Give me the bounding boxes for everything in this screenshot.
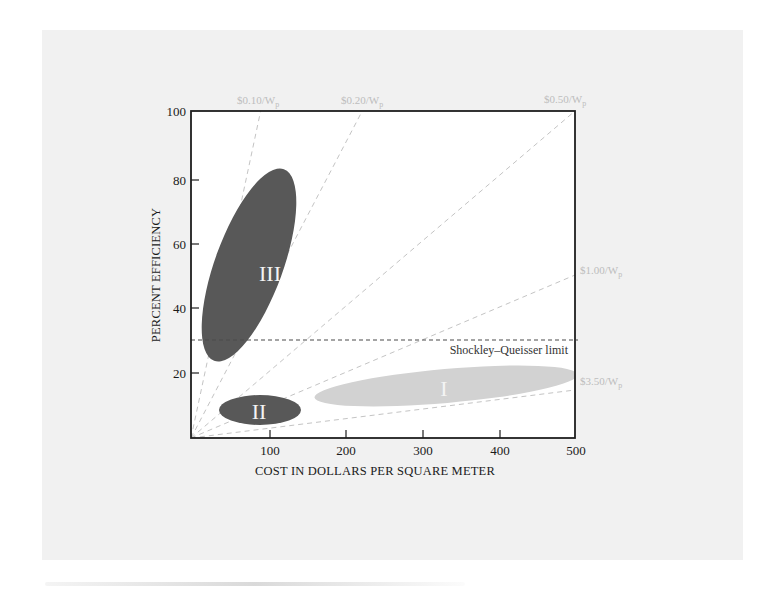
svg-text:$0.10/Wp: $0.10/Wp: [237, 94, 279, 109]
x-tick-200: 200: [336, 443, 356, 458]
efficiency-cost-chart: I II III Shockley–Queisser limit 20 40 6…: [0, 0, 783, 596]
x-tick-400: 400: [490, 443, 510, 458]
y-axis-title: PERCENT EFFICIENCY: [149, 208, 163, 342]
y-tick-20: 20: [173, 366, 186, 381]
y-tick-80: 80: [173, 173, 186, 188]
cost-line-label-1-00: $1.00/Wp: [580, 264, 622, 279]
x-tick-500: 500: [566, 443, 586, 458]
region-i-label: I: [440, 376, 447, 401]
x-axis-title: COST IN DOLLARS PER SQUARE METER: [255, 464, 495, 478]
cost-line-label-0-50: $0.50/Wp: [544, 93, 586, 108]
region-ii-label: II: [252, 399, 267, 424]
region-iii-label: III: [259, 261, 281, 286]
svg-text:$3.50/Wp: $3.50/Wp: [580, 375, 622, 390]
cost-line-label-0-10: $0.10/Wp: [237, 94, 279, 109]
cost-line-label-3-50: $3.50/Wp: [580, 375, 622, 390]
y-tick-60: 60: [173, 237, 186, 252]
y-tick-100: 100: [167, 104, 187, 119]
cost-line-label-0-20: $0.20/Wp: [341, 94, 383, 109]
x-tick-100: 100: [260, 443, 280, 458]
svg-text:$0.20/Wp: $0.20/Wp: [341, 94, 383, 109]
svg-text:$1.00/Wp: $1.00/Wp: [580, 264, 622, 279]
shockley-queisser-label: Shockley–Queisser limit: [450, 343, 569, 357]
y-tick-40: 40: [173, 301, 186, 316]
svg-text:$0.50/Wp: $0.50/Wp: [544, 93, 586, 108]
x-tick-300: 300: [413, 443, 433, 458]
